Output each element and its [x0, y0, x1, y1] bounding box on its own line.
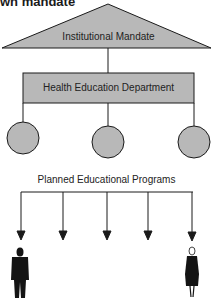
hierarchy-diagram	[0, 0, 213, 300]
department-label: Health Education Department	[23, 82, 194, 93]
woman-figure-icon	[185, 247, 199, 297]
programs-label: Planned Educational Programs	[0, 174, 213, 185]
program-unit-circle	[7, 122, 39, 154]
man-figure-icon	[11, 248, 29, 299]
program-unit-circle	[178, 126, 210, 158]
institutional-mandate-label: Institutional Mandate	[0, 31, 213, 42]
arrow-icon	[17, 192, 196, 241]
program-unit-circle	[92, 126, 124, 158]
